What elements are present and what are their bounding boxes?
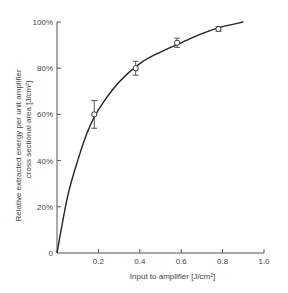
y-tick-label: 80%	[37, 64, 53, 73]
x-tick-label: 0.8	[217, 257, 229, 266]
x-tick-label: 0.6	[176, 257, 188, 266]
fit-curve	[57, 22, 243, 253]
x-axis-title: Input to amplifier [J/cm²]	[130, 272, 215, 281]
x-tick-label: 0.4	[134, 257, 146, 266]
y-tick-label: 0	[49, 249, 54, 258]
y-tick-label: 20%	[37, 203, 53, 212]
data-point-marker	[92, 112, 97, 117]
data-point-marker	[133, 66, 138, 71]
y-tick-label: 60%	[37, 110, 53, 119]
chart: 020%40%60%80%100%0.20.40.60.81.0 Input t…	[0, 0, 288, 293]
y-tick-label: 100%	[33, 18, 53, 27]
y-axis-title-line1: Relative extracted energy per unit ampli…	[14, 69, 23, 221]
data-points	[91, 26, 221, 128]
x-tick-label: 0.2	[93, 257, 105, 266]
axis-labels: Input to amplifier [J/cm²]Relative extra…	[14, 69, 215, 281]
y-axis-title-line2: cross sectional area [J/cm²]	[24, 81, 33, 178]
fit-curve-path	[57, 22, 243, 253]
x-tick-label: 1.0	[258, 257, 270, 266]
data-point-marker	[216, 26, 221, 31]
axes: 020%40%60%80%100%0.20.40.60.81.0	[33, 18, 271, 266]
data-point-marker	[174, 40, 179, 45]
y-tick-label: 40%	[37, 157, 53, 166]
